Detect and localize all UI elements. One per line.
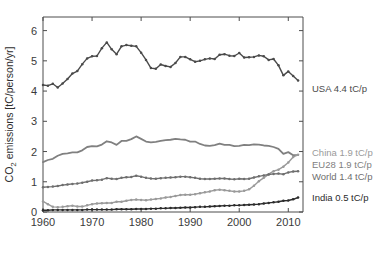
data-point (96, 208, 99, 211)
data-point (101, 208, 104, 211)
data-point (130, 44, 133, 47)
y-tick-label: 4 (31, 85, 37, 97)
data-point (56, 206, 59, 209)
legend-label-china: China 1.9 tC/p (312, 147, 373, 158)
data-point (169, 196, 172, 199)
data-point (213, 177, 216, 180)
data-point (209, 205, 212, 208)
data-point (258, 54, 261, 57)
data-point (179, 175, 182, 178)
data-point (56, 185, 59, 188)
data-point (258, 180, 261, 183)
data-point (179, 56, 182, 59)
data-point (101, 47, 104, 50)
data-point (91, 179, 94, 182)
data-point (184, 194, 187, 197)
data-point (56, 209, 59, 212)
data-point (184, 206, 187, 209)
data-point (71, 204, 74, 207)
x-tick-label: 2010 (276, 216, 300, 228)
data-point (47, 203, 50, 206)
data-point (96, 202, 99, 205)
data-point (120, 200, 123, 203)
data-point (258, 203, 261, 206)
data-point (179, 194, 182, 197)
data-point (86, 204, 89, 207)
data-point (120, 208, 123, 211)
data-point (292, 156, 295, 159)
data-point (263, 174, 266, 177)
data-point (115, 178, 118, 181)
y-tick-label: 1 (31, 176, 37, 188)
data-point (209, 57, 212, 60)
legend-label-usa: USA 4.4 tC/p (312, 83, 367, 94)
data-point (218, 188, 221, 191)
x-tick-label: 1980 (129, 216, 153, 228)
data-point (248, 177, 251, 180)
data-point (106, 177, 109, 180)
data-point (71, 183, 74, 186)
data-point (223, 204, 226, 207)
data-point (189, 206, 192, 209)
data-point (135, 208, 138, 211)
data-point (282, 165, 285, 168)
data-point (52, 185, 55, 188)
data-point (66, 205, 69, 208)
series-line-eu28 (43, 136, 298, 162)
data-point (145, 199, 148, 202)
y-tick-label: 0 (31, 206, 37, 218)
data-point (150, 198, 153, 201)
data-point (169, 176, 172, 179)
data-point (52, 83, 55, 86)
data-point (145, 177, 148, 180)
data-point (96, 179, 99, 182)
data-point (130, 199, 133, 202)
data-point (292, 198, 295, 201)
data-point (150, 207, 153, 210)
y-axis-label: CO2 emissions [tC/person/yr] (3, 47, 18, 183)
data-point (292, 170, 295, 173)
data-point (56, 86, 59, 89)
data-point (277, 200, 280, 203)
data-point (179, 207, 182, 210)
data-point (228, 204, 231, 207)
data-point (204, 58, 207, 61)
data-point (189, 176, 192, 179)
y-tick-label: 3 (31, 115, 37, 127)
data-point (155, 67, 158, 70)
data-point (243, 56, 246, 59)
data-point (209, 178, 212, 181)
legend-label-world: World 1.4 tC/p (312, 171, 373, 182)
data-point (71, 72, 74, 75)
data-point (238, 190, 241, 193)
data-point (297, 170, 300, 173)
data-point (96, 55, 99, 58)
data-point (297, 154, 300, 157)
data-point (213, 205, 216, 208)
data-point (272, 173, 275, 176)
data-point (145, 208, 148, 211)
data-point (184, 175, 187, 178)
data-point (213, 58, 216, 61)
data-point (76, 182, 79, 185)
data-point (204, 178, 207, 181)
data-point (155, 198, 158, 201)
data-point (238, 52, 241, 55)
data-point (115, 208, 118, 211)
legend-label-india: India 0.5 tC/p (312, 192, 369, 203)
data-point (253, 184, 256, 187)
data-point (130, 176, 133, 179)
data-point (287, 161, 290, 164)
data-point (81, 181, 84, 184)
data-point (61, 209, 64, 212)
series-line-world (43, 171, 298, 187)
x-tick-label: 1970 (80, 216, 104, 228)
data-point (125, 200, 128, 203)
data-point (81, 63, 84, 66)
data-point (263, 55, 266, 58)
data-point (189, 194, 192, 197)
data-point (253, 176, 256, 179)
data-point (218, 177, 221, 180)
data-point (194, 177, 197, 180)
data-point (223, 53, 226, 56)
